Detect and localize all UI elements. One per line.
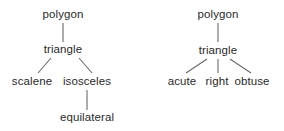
node-polygon: polygon — [43, 8, 84, 21]
node-isosceles: isosceles — [63, 75, 111, 88]
node-equilateral: equilateral — [60, 111, 114, 124]
node-polygon: polygon — [198, 8, 239, 21]
edge-triangle-acute — [186, 59, 207, 73]
node-scalene: scalene — [12, 75, 52, 88]
node-obtuse: obtuse — [234, 75, 269, 88]
node-triangle: triangle — [199, 44, 238, 57]
node-acute: acute — [168, 75, 197, 88]
node-right: right — [206, 75, 229, 88]
edge-triangle-scalene — [38, 58, 51, 73]
edge-triangle-obtuse — [230, 59, 251, 73]
node-triangle: triangle — [44, 43, 83, 56]
edge-triangle-isosceles — [79, 58, 92, 73]
